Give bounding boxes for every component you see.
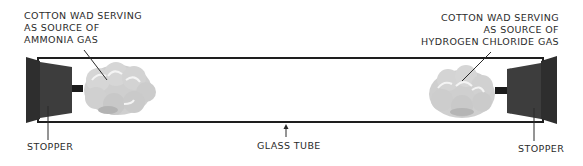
- glass-tube-label: GLASS TUBE: [257, 140, 321, 152]
- right-stopper: [495, 56, 557, 124]
- right-cotton-wad: [429, 65, 495, 118]
- right-stopper-label: STOPPER: [518, 143, 564, 155]
- left-cotton-label: COTTON WAD SERVING AS SOURCE OF AMMONIA …: [24, 10, 142, 46]
- left-stopper-label: STOPPER: [27, 141, 73, 153]
- tube-arrow-icon: [284, 124, 289, 137]
- left-cotton-wad: [84, 62, 156, 115]
- left-stopper: [26, 57, 83, 123]
- right-cotton-label: COTTON WAD SERVING AS SOURCE OF HYDROGEN…: [421, 12, 559, 48]
